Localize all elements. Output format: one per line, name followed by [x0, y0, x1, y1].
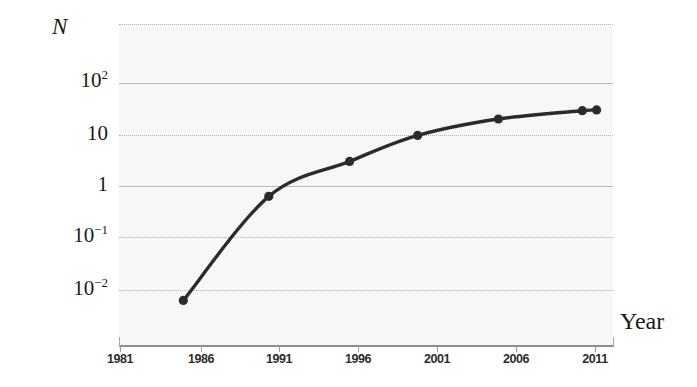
x-axis-tick-1991	[279, 345, 280, 352]
y-tick-exponent: 2	[101, 67, 108, 82]
y-axis-title: N	[52, 14, 67, 40]
y-axis-tick-labels: 102 10 1 10−1 10−2	[0, 0, 108, 387]
plot-area	[119, 24, 613, 345]
x-axis-tick-label-1981: 1981	[107, 352, 133, 366]
y-axis-tick-label-1e2: 102	[80, 70, 108, 91]
x-axis-tick-1986	[201, 345, 202, 352]
y-axis-tick-label-1em1: 10−1	[73, 225, 108, 246]
y-tick-exponent: −2	[94, 275, 108, 290]
y-axis-tick-label-1em2: 10−2	[73, 278, 108, 299]
y-tick-base: 10	[87, 121, 108, 145]
x-axis-tick-2001	[437, 345, 438, 352]
x-axis-tick-label-1986: 1986	[188, 352, 214, 366]
x-axis-tick-2006	[516, 345, 517, 352]
x-axis-tick-label-1996: 1996	[345, 352, 371, 366]
x-axis-right-cap	[613, 337, 614, 346]
y-tick-base: 10	[73, 223, 94, 247]
gridline-1em2	[119, 290, 613, 291]
y-tick-base: 1	[98, 172, 109, 196]
y-tick-base: 10	[73, 276, 94, 300]
y-tick-exponent: −1	[94, 222, 108, 237]
x-axis-tick-1996	[358, 345, 359, 352]
gridline-1em1	[119, 237, 613, 238]
x-axis-tick-label-2006: 2006	[503, 352, 529, 366]
x-axis-tick-label-1991: 1991	[266, 352, 292, 366]
y-tick-base: 10	[80, 68, 101, 92]
x-axis-tick-1981	[120, 345, 121, 352]
x-axis-tick-label-2011: 2011	[582, 352, 608, 366]
gridline-top	[119, 24, 613, 25]
x-axis-title: Year	[620, 308, 664, 335]
gridline-1e1	[119, 135, 613, 136]
y-axis-tick-label-1e0: 1	[98, 174, 109, 195]
y-axis-tick-label-1e1: 10	[87, 123, 108, 144]
x-axis-line	[119, 345, 614, 347]
chart-figure: 102 10 1 10−1 10−2 1981 1986 1991 1996 2…	[0, 0, 697, 387]
gridline-1e0	[119, 186, 613, 187]
x-axis-tick-label-2001: 2001	[424, 352, 450, 366]
gridline-1e2	[119, 83, 613, 84]
x-axis-tick-2011	[595, 345, 596, 352]
